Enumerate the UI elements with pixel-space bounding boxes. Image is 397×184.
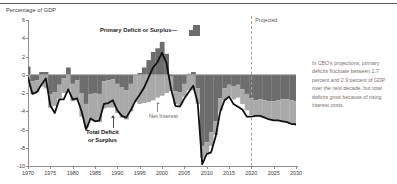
plot-inner xyxy=(28,20,296,166)
x-tick-mark xyxy=(229,166,230,169)
y-tick-mark xyxy=(26,20,29,21)
y-tick-label: -2 xyxy=(20,90,25,96)
x-tick-mark xyxy=(50,166,51,169)
total-deficit-label-line2: or Surplus xyxy=(86,137,119,145)
plot-area: 6420-2-4-6-8-10 197019751980198519901995… xyxy=(28,20,296,166)
x-tick-mark xyxy=(207,166,208,169)
y-tick-mark xyxy=(26,148,29,149)
x-tick-label: 2000 xyxy=(156,170,168,176)
x-tick-label: 1970 xyxy=(22,170,34,176)
x-tick-label: 1995 xyxy=(134,170,146,176)
net-interest-label: Net Interest xyxy=(149,113,178,119)
x-tick-label: 2015 xyxy=(223,170,235,176)
chart-page: Percentage of GDP 6420-2-4-6-8-10 197019… xyxy=(0,0,397,184)
x-tick-label: 1990 xyxy=(111,170,123,176)
x-tick-label: 2005 xyxy=(178,170,190,176)
x-tick-label: 1980 xyxy=(67,170,79,176)
total-deficit-label: Total Deficit or Surplus xyxy=(86,129,119,144)
x-tick-label: 2020 xyxy=(245,170,257,176)
y-tick-mark xyxy=(26,111,29,112)
primary-deficit-swatch xyxy=(193,25,200,36)
x-tick-mark xyxy=(162,166,163,169)
y-tick-mark xyxy=(26,93,29,94)
x-tick-label: 2010 xyxy=(201,170,213,176)
y-tick-label: -10 xyxy=(17,163,25,169)
y-tick-label: -8 xyxy=(20,145,25,151)
y-tick-mark xyxy=(26,38,29,39)
x-axis-line xyxy=(28,166,298,167)
x-tick-mark xyxy=(184,166,185,169)
y-axis-title: Percentage of GDP xyxy=(6,7,56,13)
side-note-text: In CBO's projections, primary deficits f… xyxy=(312,59,394,110)
projection-divider xyxy=(251,16,252,166)
primary-deficit-dash: — xyxy=(172,27,178,33)
x-tick-label: 2025 xyxy=(268,170,280,176)
x-tick-mark xyxy=(274,166,275,169)
x-tick-mark xyxy=(140,166,141,169)
y-tick-mark xyxy=(26,130,29,131)
y-tick-label: -4 xyxy=(20,108,25,114)
x-tick-mark xyxy=(28,166,29,169)
total-deficit-leader xyxy=(113,118,114,128)
y-tick-mark xyxy=(26,75,29,76)
x-tick-mark xyxy=(73,166,74,169)
chart-svg xyxy=(28,20,296,166)
x-tick-label: 2030 xyxy=(290,170,302,176)
x-tick-mark xyxy=(117,166,118,169)
x-tick-mark xyxy=(95,166,96,169)
y-tick-mark xyxy=(26,57,29,58)
x-tick-label: 1975 xyxy=(44,170,56,176)
x-tick-label: 1985 xyxy=(89,170,101,176)
total-deficit-label-line1: Total Deficit xyxy=(86,129,119,137)
header-rule xyxy=(0,3,397,4)
projected-label: Projected xyxy=(255,17,277,23)
x-tick-mark xyxy=(296,166,297,169)
y-tick-label: -6 xyxy=(20,127,25,133)
primary-deficit-label: Primary Deficit or Surplus— xyxy=(100,27,177,33)
net-interest-leader xyxy=(157,104,158,112)
primary-deficit-label-text: Primary Deficit or Surplus xyxy=(100,27,172,33)
x-tick-mark xyxy=(251,166,252,169)
